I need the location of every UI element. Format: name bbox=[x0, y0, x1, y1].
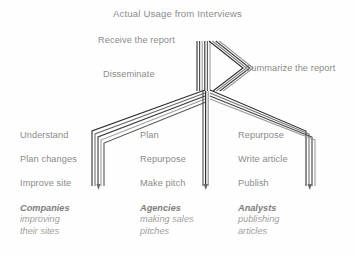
step-label-agencies-1: Plan bbox=[140, 131, 159, 140]
group-desc-agencies-line1: making sales bbox=[140, 214, 194, 225]
group-name-companies: Companies bbox=[20, 203, 70, 214]
step-label-companies-1: Understand bbox=[20, 131, 69, 140]
trunk-bundle-vertical bbox=[197, 41, 210, 91]
group-desc-companies-line2: their sites bbox=[20, 226, 70, 237]
node-label-summarize-the-report: Summarize the report bbox=[245, 64, 335, 73]
step-label-companies-2: Plan changes bbox=[20, 155, 77, 164]
middle-branch-bundle-agencies bbox=[203, 91, 208, 190]
flow-diagram: Actual Usage from Interviews bbox=[0, 0, 355, 255]
group-desc-companies-line1: improving bbox=[20, 214, 70, 225]
group-label-companies: Companies improving their sites bbox=[20, 203, 70, 237]
step-label-companies-3: Improve site bbox=[20, 179, 71, 188]
step-label-analysts-2: Write article bbox=[238, 155, 288, 164]
step-label-agencies-3: Make pitch bbox=[140, 179, 185, 188]
group-name-agencies: Agencies bbox=[140, 203, 194, 214]
node-label-disseminate: Disseminate bbox=[103, 70, 155, 79]
group-desc-analysts-line1: publishing bbox=[238, 214, 279, 225]
node-label-receive-the-report: Receive the report bbox=[98, 36, 175, 45]
group-label-analysts: Analysts publishing articles bbox=[238, 203, 279, 237]
step-label-agencies-2: Repurpose bbox=[140, 155, 186, 164]
step-label-analysts-1: Repurpose bbox=[238, 131, 284, 140]
group-desc-agencies-line2: pitches bbox=[140, 226, 194, 237]
group-desc-analysts-line2: articles bbox=[238, 226, 279, 237]
group-label-agencies: Agencies making sales pitches bbox=[140, 203, 194, 237]
group-name-analysts: Analysts bbox=[238, 203, 279, 214]
step-label-analysts-3: Publish bbox=[238, 179, 269, 188]
